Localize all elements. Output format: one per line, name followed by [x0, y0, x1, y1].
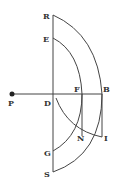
- label-E: E: [43, 34, 49, 44]
- label-B: B: [103, 84, 110, 94]
- arc-RB: [53, 15, 102, 94]
- label-P: P: [8, 98, 14, 108]
- label-I: I: [104, 133, 108, 143]
- label-R: R: [43, 11, 50, 21]
- label-S: S: [44, 169, 50, 179]
- label-N: N: [77, 133, 84, 143]
- geometry-diagram: R E P D F B N I G S: [0, 0, 119, 186]
- point-P: [10, 92, 15, 97]
- label-D: D: [44, 98, 51, 108]
- label-F: F: [74, 84, 80, 94]
- label-G: G: [44, 148, 51, 158]
